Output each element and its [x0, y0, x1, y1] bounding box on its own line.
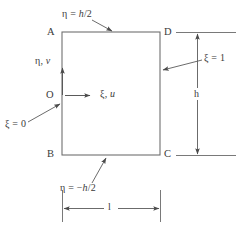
xi-axis-italic: u [110, 88, 115, 99]
corner-label-a: A [47, 27, 55, 38]
bottom-edge-leader [92, 158, 106, 183]
corner-label-b: B [47, 149, 54, 160]
left-edge-value: 0 [21, 118, 26, 129]
xi-axis-greek: ξ, [100, 88, 110, 99]
eta-axis-label: η, v [35, 56, 50, 66]
top-edge-label: η = h/2 [62, 9, 92, 19]
right-edge-prefix: ξ = [204, 52, 220, 63]
corner-label-d: D [164, 27, 172, 38]
right-edge-value: 1 [220, 52, 225, 63]
left-edge-prefix: ξ = [5, 118, 21, 129]
top-edge-leader [92, 20, 112, 31]
bottom-edge-prefix: η = − [60, 182, 83, 193]
eta-axis-greek: η, [35, 55, 46, 66]
figure-canvas: A D B C O η = h/2 η = −h/2 ξ = 0 ξ = 1 η… [0, 0, 244, 235]
height-dimension-label: h [194, 89, 199, 99]
bottom-edge-suffix: /2 [88, 182, 96, 193]
origin-label-o: O [46, 90, 54, 101]
length-dimension-label: l [108, 202, 111, 212]
left-edge-leader [28, 104, 60, 122]
top-edge-prefix: η = [62, 8, 79, 19]
diagram-svg [0, 0, 244, 235]
right-edge-label: ξ = 1 [204, 53, 225, 63]
corner-label-c: C [164, 149, 171, 160]
height-dimension [176, 33, 236, 156]
bottom-edge-label: η = −h/2 [60, 183, 96, 193]
left-edge-label: ξ = 0 [5, 119, 26, 129]
right-edge-leader [163, 60, 202, 70]
length-dimension [63, 190, 161, 222]
eta-axis-italic: v [46, 55, 51, 66]
xi-axis-label: ξ, u [100, 89, 115, 99]
top-edge-suffix: /2 [84, 8, 92, 19]
